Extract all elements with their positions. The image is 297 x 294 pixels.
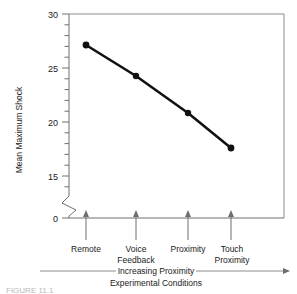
y-axis-break-icon <box>62 196 76 216</box>
line-chart: 30 25 20 15 0 Mean Maximum Shock <box>0 0 297 294</box>
plot-frame <box>69 14 284 218</box>
x-category-label-remote: Remote <box>71 244 101 254</box>
y-tick-label-30: 30 <box>48 10 58 20</box>
y-tick-label-25: 25 <box>48 64 58 74</box>
data-point-touch-proximity <box>228 145 235 152</box>
figure-caption: FIGURE 11.1 <box>6 286 54 294</box>
category-pointer-touch-proximity <box>228 210 234 240</box>
x-category-label-feedback: Feedback <box>117 255 155 265</box>
category-pointer-voice-feedback <box>133 210 139 240</box>
y-tick-label-20: 20 <box>48 118 58 128</box>
x-category-label-touch: Touch <box>221 244 244 254</box>
y-tick-label-0: 0 <box>53 214 58 224</box>
x-axis-title: Experimental Conditions <box>110 278 202 288</box>
increasing-proximity-label: Increasing Proximity <box>118 266 195 276</box>
y-tick-label-15: 15 <box>48 172 58 182</box>
data-point-remote <box>83 42 90 49</box>
figure-container: 30 25 20 15 0 Mean Maximum Shock <box>0 0 297 294</box>
right-arrow-icon <box>283 268 290 274</box>
x-category-label-voice: Voice <box>126 244 147 254</box>
category-pointer-remote <box>83 210 89 240</box>
y-axis-title: Mean Maximum Shock <box>14 86 24 173</box>
data-series-line <box>86 45 231 148</box>
data-point-proximity <box>185 110 191 116</box>
data-point-voice-feedback <box>133 73 139 79</box>
category-pointer-proximity <box>185 210 191 240</box>
x-category-label-touch-proximity: Proximity <box>215 255 251 265</box>
x-category-label-proximity: Proximity <box>171 244 207 254</box>
